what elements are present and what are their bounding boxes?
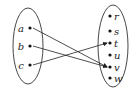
codomain-set-ellipse: [98, 5, 128, 87]
arrow-b-to-v: [33, 46, 107, 67]
element-dot-c: [28, 63, 31, 66]
mapping-diagram: abc rstuvw: [0, 0, 136, 91]
element-dot-t: [108, 41, 111, 44]
element-dot-v: [108, 65, 111, 68]
arrow-c-to-t: [33, 43, 107, 65]
element-dot-r: [108, 14, 111, 17]
domain-elements: abc: [18, 23, 32, 71]
element-label-s: s: [114, 26, 119, 37]
element-dot-w: [108, 76, 111, 79]
element-label-u: u: [114, 50, 120, 61]
element-dot-s: [108, 29, 111, 32]
element-label-r: r: [114, 11, 120, 22]
element-dot-b: [28, 44, 31, 47]
element-dot-a: [28, 26, 31, 29]
element-label-w: w: [114, 73, 123, 84]
arrow-a-to-v: [33, 28, 107, 67]
element-label-c: c: [18, 60, 24, 71]
element-label-b: b: [18, 41, 24, 52]
codomain-elements: rstuvw: [108, 11, 123, 84]
element-label-v: v: [114, 62, 120, 73]
mapping-arrows: [33, 28, 107, 67]
element-label-t: t: [114, 38, 119, 49]
element-dot-u: [108, 53, 111, 56]
element-label-a: a: [18, 23, 24, 34]
